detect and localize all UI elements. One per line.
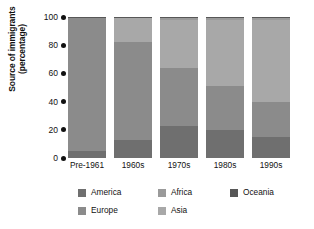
legend-column: AmericaEurope — [78, 185, 121, 221]
bar-segment-europe — [68, 18, 106, 151]
bar-segment-america — [252, 137, 290, 158]
legend-swatch-asia — [158, 207, 166, 215]
legend-swatch-oceania — [230, 189, 238, 197]
legend-item-asia[interactable]: Asia — [158, 203, 192, 218]
legend-label: Asia — [171, 206, 187, 215]
x-axis-tick-label: 1980s — [199, 160, 251, 170]
legend-label: Africa — [171, 188, 192, 197]
x-axis-tick-label: Pre-1961 — [61, 160, 113, 170]
y-axis-tick-marker — [61, 127, 66, 132]
legend-item-oceania[interactable]: Oceania — [230, 185, 274, 200]
bar-1980s — [206, 17, 244, 158]
legend-label: Oceania — [243, 188, 274, 197]
bar-segment-europe — [206, 86, 244, 130]
bar-pre-1961 — [68, 17, 106, 158]
bar-segment-america — [160, 126, 198, 158]
legend-label: America — [91, 188, 121, 197]
y-axis-tick-label: 100 — [24, 12, 58, 22]
bar-segment-europe — [160, 68, 198, 126]
bar-segment-europe — [252, 102, 290, 137]
bar-segment-asia — [252, 20, 290, 102]
bar-segment-europe — [114, 42, 152, 139]
chart-legend: AmericaEuropeAfricaAsiaOceania — [78, 185, 306, 223]
plot-area — [68, 17, 290, 158]
legend-label: Europe — [91, 206, 118, 215]
bar-segment-america — [206, 130, 244, 158]
x-axis-tick-label: 1990s — [245, 160, 297, 170]
y-axis-tick-marker — [61, 43, 66, 48]
bar-segment-america — [68, 151, 106, 158]
y-axis-tick-label: 60 — [24, 68, 58, 78]
bar-segment-asia — [160, 20, 198, 68]
x-axis-tick-label: 1970s — [153, 160, 205, 170]
legend-item-africa[interactable]: Africa — [158, 185, 192, 200]
y-axis-tick-label: 20 — [24, 125, 58, 135]
y-axis-tick-marker — [61, 15, 66, 20]
bar-segment-america — [114, 140, 152, 158]
y-axis-tick-label: 0 — [24, 153, 58, 163]
legend-swatch-europe — [78, 207, 86, 215]
legend-column: AfricaAsia — [158, 185, 192, 221]
bar-segment-asia — [114, 18, 152, 42]
y-axis-tick-label: 40 — [24, 97, 58, 107]
y-axis-tick-label: 80 — [24, 40, 58, 50]
x-axis-tick-label: 1960s — [107, 160, 159, 170]
bar-1970s — [160, 17, 198, 158]
bar-1960s — [114, 17, 152, 158]
stacked-bar-chart: Source of immigrants (percentage) 020406… — [0, 0, 314, 229]
y-axis-tick-marker — [61, 71, 66, 76]
y-axis-tick-marker — [61, 99, 66, 104]
bar-1990s — [252, 17, 290, 158]
legend-item-america[interactable]: America — [78, 185, 121, 200]
y-axis-title-line-1: Source of immigrants — [7, 0, 17, 114]
legend-item-europe[interactable]: Europe — [78, 203, 121, 218]
bar-segment-asia — [206, 20, 244, 86]
legend-column: Oceania — [230, 185, 274, 203]
legend-swatch-africa — [158, 189, 166, 197]
legend-swatch-america — [78, 189, 86, 197]
